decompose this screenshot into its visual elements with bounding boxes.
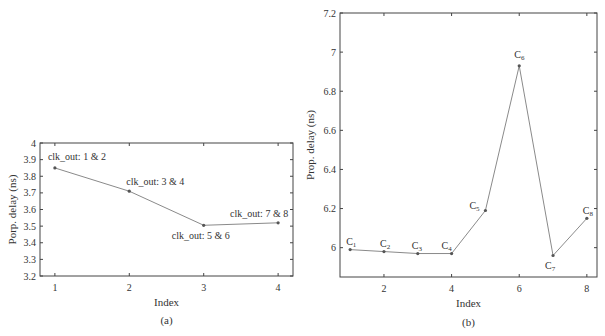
data-point (551, 254, 554, 257)
point-annotation: C3 (412, 240, 423, 253)
y-axis-title: Porp. delay (ns) (6, 174, 19, 244)
data-point (202, 224, 205, 227)
y-tick-label: 3.6 (24, 204, 37, 215)
x-tick-label: 2 (381, 283, 386, 294)
point-annotation: C5 (469, 200, 480, 213)
y-tick-label: 3.5 (24, 221, 37, 232)
y-tick-label: 3.2 (24, 271, 37, 282)
data-line (350, 66, 587, 256)
data-point (349, 248, 352, 251)
point-annotation: C7 (545, 260, 556, 273)
plot-frame (340, 13, 597, 277)
y-tick-label: 6.6 (324, 125, 337, 136)
point-annotation: clk_out: 3 & 4 (126, 176, 184, 187)
point-annotation: clk_out: 5 & 6 (172, 230, 230, 241)
panel-caption: (a) (160, 314, 173, 327)
data-point (277, 221, 280, 224)
point-annotation: C6 (514, 49, 525, 62)
y-tick-label: 3.3 (24, 254, 37, 265)
y-axis-title: Prop. delay (ns) (304, 110, 317, 180)
panel-caption: (b) (462, 316, 475, 329)
x-axis-title: Index (154, 296, 180, 308)
y-tick-label: 6 (331, 242, 336, 253)
point-annotation: C2 (380, 238, 391, 251)
y-tick-label: 6.2 (324, 203, 337, 214)
y-tick-label: 3.7 (24, 187, 37, 198)
x-tick-label: 1 (52, 282, 57, 293)
data-point (518, 64, 521, 67)
y-tick-label: 6.4 (324, 164, 337, 175)
x-tick-label: 2 (127, 282, 132, 293)
y-tick-label: 6.8 (324, 86, 337, 97)
chart-panel-a: 3.23.33.43.53.63.73.83.941234IndexPorp. … (6, 138, 293, 328)
data-point (382, 250, 385, 253)
point-annotation: clk_out: 7 & 8 (230, 208, 288, 219)
data-point (484, 209, 487, 212)
chart-panel-b: 66.26.46.66.877.22468IndexProp. delay (n… (304, 8, 597, 330)
y-tick-label: 7 (331, 47, 336, 58)
y-tick-label: 3.9 (24, 154, 37, 165)
y-tick-label: 3.8 (24, 171, 37, 182)
point-annotation: C8 (583, 205, 594, 218)
point-annotation: clk_out: 1 & 2 (48, 151, 106, 162)
x-tick-label: 3 (201, 282, 206, 293)
point-annotation: C4 (442, 240, 453, 253)
data-point (53, 166, 56, 169)
x-tick-label: 4 (449, 283, 454, 294)
y-tick-label: 7.2 (324, 8, 337, 19)
point-annotation: C1 (346, 236, 357, 249)
x-axis-title: Index (456, 297, 482, 309)
x-tick-label: 6 (517, 283, 522, 294)
x-tick-label: 4 (276, 282, 281, 293)
y-tick-label: 3.4 (24, 237, 37, 248)
data-point (128, 190, 131, 193)
x-tick-label: 8 (584, 283, 589, 294)
data-point (585, 217, 588, 220)
figure: 3.23.33.43.53.63.73.83.941234IndexPorp. … (0, 0, 605, 336)
y-tick-label: 4 (31, 138, 36, 149)
